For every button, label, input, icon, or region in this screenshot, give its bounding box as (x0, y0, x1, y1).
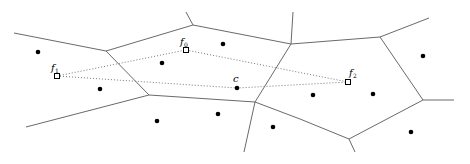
site-dot (98, 87, 103, 92)
voronoi-edge (380, 37, 423, 100)
voronoi-sites (36, 42, 426, 135)
point-f0-subscript: 0 (184, 41, 188, 48)
voronoi-edge (26, 95, 149, 127)
site-dot (155, 119, 160, 124)
point-f2-marker (346, 80, 351, 85)
voronoi-edge (300, 119, 349, 139)
center-point: c (233, 73, 239, 84)
site-dot (409, 130, 414, 135)
center-label: c (233, 73, 239, 84)
voronoi-edge (106, 51, 149, 95)
voronoi-edge (193, 25, 291, 44)
site-dot (271, 125, 276, 130)
site-dot (36, 50, 41, 55)
point-f1-marker (55, 74, 60, 79)
voronoi-diagram: f0f1f2 c (0, 0, 470, 164)
voronoi-edge (14, 33, 106, 51)
dotted-paths (57, 50, 348, 88)
voronoi-edge (349, 139, 355, 152)
site-dot (421, 54, 426, 59)
voronoi-edge (291, 37, 380, 44)
site-dot (221, 42, 226, 47)
point-f1-subscript: 1 (55, 67, 59, 74)
site-dot (371, 92, 376, 97)
dotted-path (57, 50, 348, 82)
voronoi-edge (149, 95, 255, 102)
voronoi-edge (291, 12, 293, 44)
labeled-points: f0f1f2 (50, 36, 357, 85)
voronoi-edge (255, 102, 300, 119)
dotted-path (57, 76, 348, 88)
site-dot (311, 93, 316, 98)
point-f2-subscript: 2 (353, 72, 357, 79)
voronoi-edge (186, 12, 193, 25)
voronoi-edge (255, 44, 291, 102)
site-dot (160, 61, 165, 66)
site-dot (216, 112, 221, 117)
voronoi-edge (244, 102, 255, 152)
point-f0-marker (184, 48, 189, 53)
site-dot (235, 86, 240, 91)
voronoi-edge (380, 18, 429, 37)
